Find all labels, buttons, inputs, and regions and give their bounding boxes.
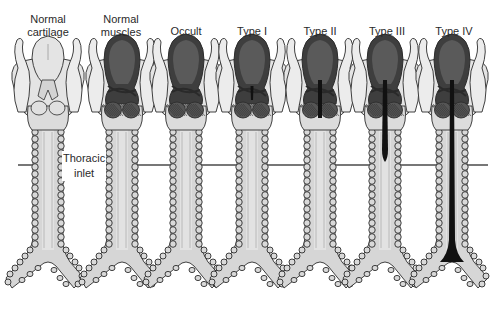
cartilage-ring xyxy=(436,171,442,178)
cleft-type3 xyxy=(382,80,388,162)
bronchus-ring xyxy=(137,247,143,253)
cartilage-ring xyxy=(330,178,336,185)
cartilage-ring xyxy=(369,241,375,248)
trachea xyxy=(209,128,289,288)
muscle-inner xyxy=(109,40,135,84)
bronchus-ring xyxy=(27,271,33,276)
muscle-inner xyxy=(307,40,333,84)
cartilage-ring xyxy=(170,234,176,241)
cartilage-ring xyxy=(436,157,442,164)
cartilage-ring xyxy=(462,227,468,234)
trachea xyxy=(277,128,357,288)
bronchus-ring xyxy=(131,275,137,280)
larynx xyxy=(12,36,85,130)
cartilage-ring xyxy=(58,192,64,199)
bronchus-ring xyxy=(471,253,477,259)
cartilage-ring xyxy=(170,227,176,234)
bronchus-ring xyxy=(299,247,305,253)
cartilage-ring xyxy=(106,199,112,206)
cartilage-ring xyxy=(58,241,64,248)
cartilage-ring xyxy=(32,178,38,185)
cartilage-ring xyxy=(236,136,242,143)
cartilage-ring xyxy=(436,164,442,171)
bronchus-ring xyxy=(79,279,85,285)
bronchus-ring xyxy=(201,247,207,253)
bronchus-ring xyxy=(359,253,365,259)
cartilage-ring xyxy=(58,143,64,150)
bronchus-ring xyxy=(307,265,313,270)
muscle-inner xyxy=(239,40,265,84)
cartilage-ring xyxy=(262,136,268,143)
label-line: inlet xyxy=(63,166,105,181)
cartilage-ring xyxy=(132,227,138,234)
cartilage-ring xyxy=(32,206,38,213)
bronchus-ring xyxy=(150,265,156,271)
cartilage-ring xyxy=(369,185,375,192)
cartilage-ring xyxy=(369,206,375,213)
cartilage-ring xyxy=(262,199,268,206)
left-horn xyxy=(218,38,234,112)
cartilage-ring xyxy=(304,199,310,206)
bronchus-ring xyxy=(394,275,400,280)
bronchus-ring xyxy=(155,259,161,265)
cartilage-ring xyxy=(58,234,64,241)
muscle-inner xyxy=(439,40,465,84)
bronchus-ring xyxy=(364,271,370,276)
bronchus-ring xyxy=(277,279,283,285)
bronchus-ring xyxy=(201,281,207,286)
cartilage-ring xyxy=(304,192,310,199)
cartilage-ring xyxy=(304,157,310,164)
cartilage-ring xyxy=(262,164,268,171)
cartilage-ring xyxy=(395,213,401,220)
bronchus-ring xyxy=(342,279,348,285)
cartilage-ring xyxy=(236,171,242,178)
cartilage-ring xyxy=(236,213,242,220)
cartilage-ring xyxy=(262,171,268,178)
bronchus-ring xyxy=(22,253,28,259)
bronchus-ring xyxy=(223,277,229,282)
left-horn xyxy=(286,38,302,112)
cartilage-ring xyxy=(395,136,401,143)
cartilage-ring xyxy=(58,220,64,227)
bronchus-ring xyxy=(17,259,23,265)
label-line: muscles xyxy=(86,26,156,39)
bronchus-ring xyxy=(255,267,261,272)
specimen-type-ii xyxy=(277,34,357,288)
cartilage-ring xyxy=(170,164,176,171)
cleft-mark xyxy=(251,86,254,100)
cartilage-ring xyxy=(170,241,176,248)
cartilage-ring xyxy=(369,171,375,178)
cartilage-ring xyxy=(32,150,38,157)
laryngeal-cleft-diagram: Normal cartilage Normal muscles Occult T… xyxy=(0,0,503,309)
bronchus-ring xyxy=(146,259,152,265)
cartilage-ring xyxy=(32,199,38,206)
cartilage-ring xyxy=(196,157,202,164)
bronchus-ring xyxy=(279,271,285,277)
cartilage-ring xyxy=(262,185,268,192)
cartilage-ring xyxy=(262,157,268,164)
cartilage-ring xyxy=(236,157,242,164)
bronchus-ring xyxy=(431,247,437,253)
bronchus-ring xyxy=(101,271,107,276)
cartilage-ring xyxy=(369,178,375,185)
cartilage-ring xyxy=(196,143,202,150)
cartilage-ring xyxy=(462,136,468,143)
cartilage-ring xyxy=(395,220,401,227)
cartilage-ring xyxy=(58,227,64,234)
cartilage-ring xyxy=(106,220,112,227)
bronchus-ring xyxy=(231,271,237,276)
cartilage-ring xyxy=(170,143,176,150)
bronchus-ring xyxy=(93,277,99,282)
cartilage-ring xyxy=(236,220,242,227)
cartilage-ring xyxy=(262,234,268,241)
cartilage-ring xyxy=(196,171,202,178)
bronchus-ring xyxy=(7,271,13,277)
bronchus-ring xyxy=(423,277,429,282)
cartilage-ring xyxy=(58,185,64,192)
cartilage-ring xyxy=(132,171,138,178)
cartilage-ring xyxy=(436,206,442,213)
cartilage-ring xyxy=(132,199,138,206)
cartilage-ring xyxy=(462,185,468,192)
cartilage-ring xyxy=(170,220,176,227)
bronchus-ring xyxy=(91,259,97,265)
